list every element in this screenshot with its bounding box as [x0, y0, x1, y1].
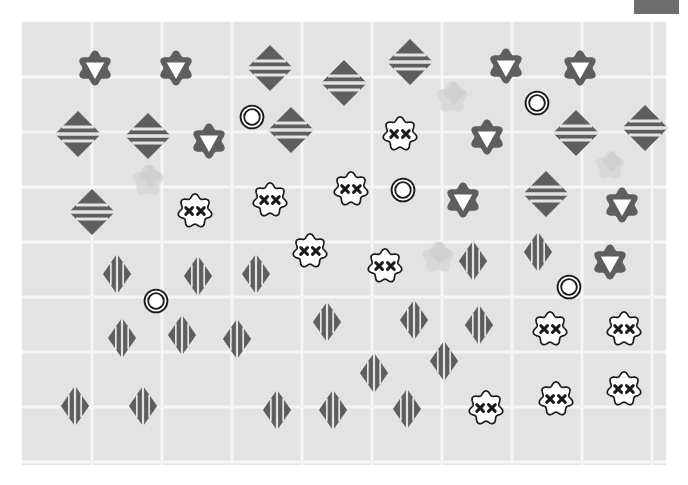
piece-diamond-hstripe[interactable] — [245, 43, 295, 93]
piece-diamond-vstripe[interactable] — [215, 317, 259, 361]
piece-flower-triangle[interactable] — [599, 182, 645, 228]
piece-cloud-xx[interactable] — [535, 378, 577, 420]
piece-diamond-vstripe[interactable] — [451, 239, 495, 283]
piece-diamond-hstripe[interactable] — [266, 105, 316, 155]
piece-diamond-hstripe[interactable] — [67, 187, 117, 237]
piece-cloud-xx[interactable] — [529, 308, 571, 350]
piece-flower-triangle[interactable] — [557, 45, 603, 91]
piece-diamond-vstripe[interactable] — [160, 313, 204, 357]
piece-diamond-vstripe[interactable] — [385, 387, 429, 431]
piece-ghost-blob — [127, 159, 169, 201]
piece-double-ring[interactable] — [556, 274, 582, 300]
piece-diamond-vstripe[interactable] — [234, 252, 278, 296]
piece-ghost-blob — [591, 146, 629, 184]
piece-cloud-xx[interactable] — [249, 179, 291, 221]
piece-diamond-vstripe[interactable] — [176, 254, 220, 298]
piece-ghost-blob — [431, 76, 473, 118]
piece-diamond-vstripe[interactable] — [516, 230, 560, 274]
piece-cloud-xx[interactable] — [379, 113, 421, 155]
piece-double-ring[interactable] — [524, 90, 550, 116]
piece-diamond-hstripe[interactable] — [521, 169, 571, 219]
piece-diamond-vstripe[interactable] — [121, 384, 165, 428]
piece-cloud-xx[interactable] — [603, 368, 645, 410]
piece-diamond-vstripe[interactable] — [305, 300, 349, 344]
piece-diamond-hstripe[interactable] — [123, 111, 173, 161]
piece-flower-triangle[interactable] — [153, 45, 199, 91]
piece-cloud-xx[interactable] — [330, 168, 372, 210]
piece-diamond-hstripe[interactable] — [319, 58, 369, 108]
piece-diamond-hstripe[interactable] — [385, 37, 435, 87]
piece-diamond-vstripe[interactable] — [311, 388, 355, 432]
piece-cloud-xx[interactable] — [603, 308, 645, 350]
piece-cloud-xx[interactable] — [289, 230, 331, 272]
piece-flower-triangle[interactable] — [483, 43, 529, 89]
piece-double-ring[interactable] — [143, 288, 169, 314]
piece-diamond-vstripe[interactable] — [422, 339, 466, 383]
piece-flower-triangle[interactable] — [440, 177, 486, 223]
piece-double-ring[interactable] — [239, 104, 265, 130]
game-board[interactable] — [22, 22, 666, 465]
screenshot-canvas — [0, 0, 688, 485]
piece-diamond-vstripe[interactable] — [255, 388, 299, 432]
piece-double-ring[interactable] — [390, 177, 416, 203]
piece-cloud-xx[interactable] — [174, 190, 216, 232]
piece-flower-triangle[interactable] — [464, 114, 510, 160]
piece-flower-triangle[interactable] — [186, 118, 232, 164]
piece-diamond-vstripe[interactable] — [95, 252, 139, 296]
piece-diamond-vstripe[interactable] — [392, 298, 436, 342]
piece-flower-triangle[interactable] — [72, 45, 118, 91]
piece-cloud-xx[interactable] — [465, 387, 507, 429]
piece-diamond-hstripe[interactable] — [53, 109, 103, 159]
piece-flower-triangle[interactable] — [587, 239, 633, 285]
piece-diamond-vstripe[interactable] — [53, 384, 97, 428]
piece-diamond-vstripe[interactable] — [100, 316, 144, 360]
piece-cloud-xx[interactable] — [364, 245, 406, 287]
hud-block — [634, 0, 679, 14]
